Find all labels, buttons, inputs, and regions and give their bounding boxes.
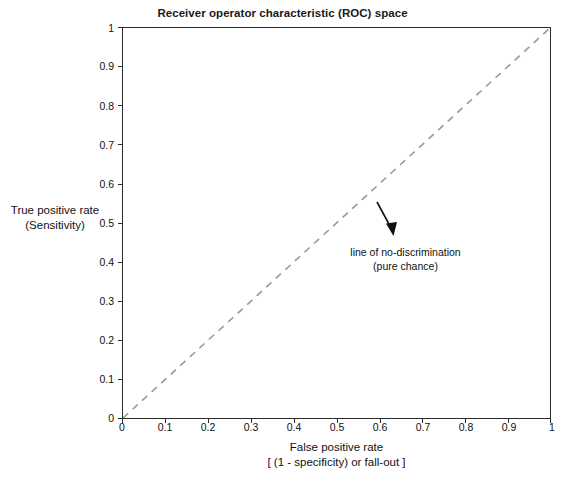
x-tick-label-0-8: 0.8: [449, 421, 483, 433]
no-discrimination-line: [123, 28, 550, 418]
y-axis-title-line-2: (Sensitivity): [2, 218, 108, 233]
annotation-label: line of no-discrimination (pure chance): [318, 245, 493, 273]
x-tick-mark-0-3: [251, 419, 252, 423]
x-tick-mark-0: [122, 419, 123, 423]
x-tick-label-0-7: 0.7: [406, 421, 440, 433]
x-axis-title-line-2: [ (1 - specificity) or fall-out ]: [122, 455, 551, 470]
diagonal-line-layer: [123, 28, 550, 418]
plot-area: [122, 27, 551, 419]
x-tick-mark-0-8: [465, 419, 466, 423]
x-axis-title: False positive rate [ (1 - specificity) …: [122, 440, 551, 470]
x-tick-mark-0-2: [208, 419, 209, 423]
x-tick-mark-0-6: [380, 419, 381, 423]
x-tick-mark-0-9: [508, 419, 509, 423]
y-axis-title-line-1: True positive rate: [2, 203, 108, 218]
y-tick-label-0-3: 0.3: [84, 295, 114, 307]
x-tick-label-0-9: 0.9: [492, 421, 526, 433]
x-axis-title-line-1: False positive rate: [122, 440, 551, 455]
y-tick-label-0-6: 0.6: [84, 178, 114, 190]
y-tick-label-0-9: 0.9: [84, 60, 114, 72]
y-tick-label-0-1: 0.1: [84, 373, 114, 385]
annotation-line-1: line of no-discrimination: [318, 245, 493, 259]
y-tick-label-0-2: 0.2: [84, 334, 114, 346]
y-tick-label-0-4: 0.4: [84, 256, 114, 268]
y-axis-title: True positive rate (Sensitivity): [2, 203, 108, 232]
x-tick-mark-0-5: [337, 419, 338, 423]
x-tick-mark-1: [550, 419, 551, 423]
y-tick-label-1: 1: [84, 22, 114, 34]
annotation-line-2: (pure chance): [318, 259, 493, 273]
y-tick-label-0-8: 0.8: [84, 100, 114, 112]
roc-space-figure: Receiver operator characteristic (ROC) s…: [0, 0, 565, 483]
annotation-arrow-icon: [368, 196, 408, 240]
x-tick-mark-0-7: [422, 419, 423, 423]
x-tick-mark-0-4: [294, 419, 295, 423]
page-title: Receiver operator characteristic (ROC) s…: [0, 7, 565, 19]
x-tick-mark-0-1: [165, 419, 166, 423]
y-tick-label-0-7: 0.7: [84, 139, 114, 151]
